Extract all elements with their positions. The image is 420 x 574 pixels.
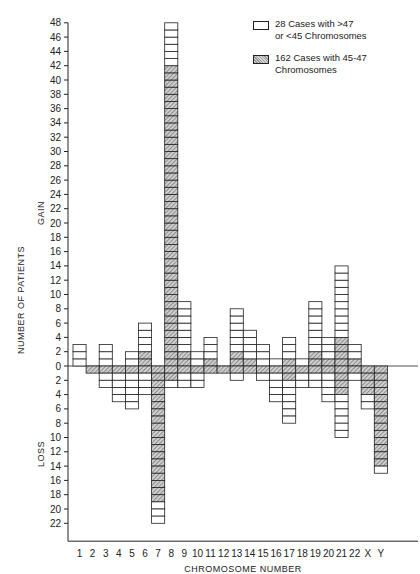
svg-text:46: 46 xyxy=(50,32,62,43)
svg-text:22: 22 xyxy=(50,518,62,529)
chromosome-bar-chart: 0246810121416182022242628303234363840424… xyxy=(0,0,420,574)
svg-text:X: X xyxy=(364,548,371,559)
svg-text:42: 42 xyxy=(50,60,62,71)
shaded-swatch-icon xyxy=(253,55,269,64)
svg-text:18: 18 xyxy=(50,489,62,500)
svg-text:48: 48 xyxy=(50,17,62,28)
svg-text:38: 38 xyxy=(50,89,62,100)
svg-text:1: 1 xyxy=(77,548,83,559)
svg-text:0: 0 xyxy=(55,361,61,372)
svg-text:4: 4 xyxy=(55,389,61,400)
svg-text:14: 14 xyxy=(244,548,256,559)
svg-text:GAIN: GAIN xyxy=(36,201,46,225)
svg-text:6: 6 xyxy=(55,403,61,414)
svg-text:10: 10 xyxy=(50,289,62,300)
svg-text:22: 22 xyxy=(50,203,62,214)
svg-text:20: 20 xyxy=(50,218,62,229)
svg-text:30: 30 xyxy=(50,146,62,157)
svg-text:2: 2 xyxy=(90,548,96,559)
legend-open-line2: or <45 Chromosomes xyxy=(275,30,367,42)
svg-text:18: 18 xyxy=(50,232,62,243)
svg-text:8: 8 xyxy=(55,303,61,314)
svg-text:11: 11 xyxy=(205,548,216,559)
svg-text:32: 32 xyxy=(50,132,62,143)
svg-text:10: 10 xyxy=(192,548,204,559)
legend-open-line1: 28 Cases with >47 xyxy=(275,18,367,30)
svg-text:17: 17 xyxy=(284,548,296,559)
svg-text:9: 9 xyxy=(182,548,188,559)
open-swatch-icon xyxy=(253,21,269,30)
svg-text:NUMBER OF PATIENTS: NUMBER OF PATIENTS xyxy=(16,246,26,354)
svg-text:12: 12 xyxy=(50,275,62,286)
svg-text:16: 16 xyxy=(270,548,282,559)
bars xyxy=(73,23,387,524)
svg-text:5: 5 xyxy=(129,548,135,559)
svg-text:34: 34 xyxy=(50,117,62,128)
axes: 0246810121416182022242628303234363840424… xyxy=(50,17,418,541)
svg-text:44: 44 xyxy=(50,46,62,57)
svg-text:4: 4 xyxy=(116,548,122,559)
svg-text:24: 24 xyxy=(50,189,62,200)
svg-text:Y: Y xyxy=(378,548,385,559)
svg-text:6: 6 xyxy=(55,318,61,329)
svg-text:14: 14 xyxy=(50,461,62,472)
svg-text:4: 4 xyxy=(55,332,61,343)
svg-text:LOSS: LOSS xyxy=(36,441,46,467)
svg-text:40: 40 xyxy=(50,75,62,86)
legend-item-open: 28 Cases with >47 or <45 Chromosomes xyxy=(253,18,367,42)
svg-text:16: 16 xyxy=(50,475,62,486)
svg-text:26: 26 xyxy=(50,175,62,186)
svg-text:28: 28 xyxy=(50,160,62,171)
svg-text:CHROMOSOME NUMBER: CHROMOSOME NUMBER xyxy=(184,564,302,574)
legend-shaded-line2: Chromosomes xyxy=(275,64,367,76)
svg-text:2: 2 xyxy=(55,346,61,357)
svg-text:12: 12 xyxy=(50,446,62,457)
svg-text:36: 36 xyxy=(50,103,62,114)
svg-text:7: 7 xyxy=(155,548,161,559)
svg-text:10: 10 xyxy=(50,432,62,443)
svg-text:14: 14 xyxy=(50,260,62,271)
svg-text:19: 19 xyxy=(310,548,322,559)
svg-text:22: 22 xyxy=(349,548,361,559)
svg-text:20: 20 xyxy=(323,548,335,559)
svg-text:16: 16 xyxy=(50,246,62,257)
svg-text:12: 12 xyxy=(218,548,230,559)
svg-text:21: 21 xyxy=(336,548,348,559)
svg-text:2: 2 xyxy=(55,375,61,386)
svg-text:3: 3 xyxy=(103,548,109,559)
legend-item-shaded: 162 Cases with 45-47 Chromosomes xyxy=(253,52,367,76)
svg-text:6: 6 xyxy=(142,548,148,559)
legend: 28 Cases with >47 or <45 Chromosomes 162… xyxy=(253,18,367,86)
svg-text:8: 8 xyxy=(168,548,174,559)
svg-text:20: 20 xyxy=(50,504,62,515)
svg-text:18: 18 xyxy=(297,548,309,559)
svg-text:13: 13 xyxy=(231,548,243,559)
legend-shaded-line1: 162 Cases with 45-47 xyxy=(275,52,367,64)
svg-text:15: 15 xyxy=(257,548,269,559)
svg-text:8: 8 xyxy=(55,418,61,429)
